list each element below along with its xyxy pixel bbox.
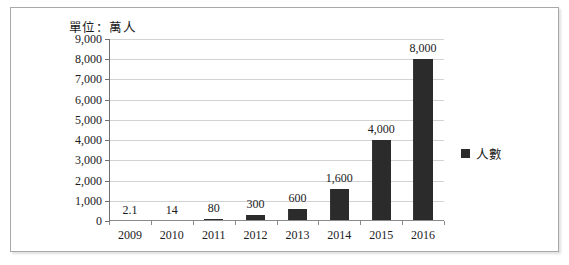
bar-value-label: 4,000 bbox=[368, 122, 395, 137]
y-axis-label: 3,000 bbox=[75, 153, 102, 168]
x-axis-tick bbox=[402, 221, 403, 225]
bar-value-label: 8,000 bbox=[410, 41, 437, 56]
x-axis-tick bbox=[444, 221, 445, 225]
y-axis-label: 8,000 bbox=[75, 52, 102, 67]
x-axis-label: 2013 bbox=[285, 228, 309, 243]
y-axis-label: 1,000 bbox=[75, 193, 102, 208]
bar bbox=[330, 189, 349, 221]
x-axis-label: 2012 bbox=[244, 228, 268, 243]
legend-series-label: 人數 bbox=[476, 144, 502, 163]
x-axis-label: 2014 bbox=[327, 228, 351, 243]
y-axis-label: 6,000 bbox=[75, 92, 102, 107]
x-axis-label: 2009 bbox=[118, 228, 142, 243]
x-axis-tick bbox=[235, 221, 236, 225]
y-axis-label: 7,000 bbox=[75, 72, 102, 87]
x-axis-tick bbox=[277, 221, 278, 225]
bar-value-label: 14 bbox=[166, 203, 178, 218]
x-axis-label: 2016 bbox=[411, 228, 435, 243]
bar-value-label: 300 bbox=[247, 197, 265, 212]
gridline bbox=[109, 79, 444, 80]
gridline bbox=[109, 201, 444, 202]
x-axis-tick bbox=[318, 221, 319, 225]
bar-value-label: 2.1 bbox=[122, 203, 137, 218]
gridline bbox=[109, 100, 444, 101]
gridline bbox=[109, 39, 444, 40]
x-axis-line bbox=[109, 220, 444, 221]
chart-plot-area: 01,0002,0003,0004,0005,0006,0007,0008,00… bbox=[109, 39, 444, 221]
chart-legend: 人數 bbox=[461, 144, 502, 163]
y-axis-label: 2,000 bbox=[75, 173, 102, 188]
chart-figure-frame: 單位：萬人 合法 樣品 01,0002,0003,0004,0005,0006,… bbox=[10, 7, 559, 252]
bar-value-label: 1,600 bbox=[326, 171, 353, 186]
gridline bbox=[109, 120, 444, 121]
bar-value-label: 600 bbox=[288, 191, 306, 206]
gridline bbox=[109, 59, 444, 60]
x-axis-tick bbox=[109, 221, 110, 225]
bar bbox=[372, 140, 391, 221]
x-axis-label: 2011 bbox=[202, 228, 226, 243]
gridline bbox=[109, 140, 444, 141]
legend-square-marker-icon bbox=[461, 149, 470, 158]
gridline bbox=[109, 160, 444, 161]
y-axis-label: 9,000 bbox=[75, 32, 102, 47]
bar bbox=[413, 59, 432, 221]
y-axis-label: 4,000 bbox=[75, 133, 102, 148]
y-axis-label: 5,000 bbox=[75, 112, 102, 127]
bar-value-label: 80 bbox=[208, 201, 220, 216]
gridline bbox=[109, 181, 444, 182]
y-axis-line bbox=[109, 39, 110, 221]
y-axis-label: 0 bbox=[96, 214, 102, 229]
x-axis-tick bbox=[151, 221, 152, 225]
x-axis-label: 2010 bbox=[160, 228, 184, 243]
x-axis-tick bbox=[360, 221, 361, 225]
x-axis-label: 2015 bbox=[369, 228, 393, 243]
x-axis-tick bbox=[193, 221, 194, 225]
